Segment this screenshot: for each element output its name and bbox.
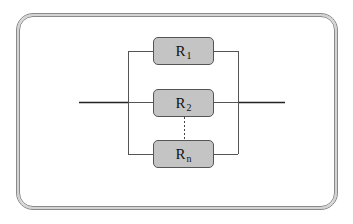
resistor-2-subscript: 2 — [187, 102, 192, 113]
resistor-1: R1 — [153, 37, 214, 65]
resistor-n: Rn — [153, 140, 214, 168]
resistor-1-subscript: 1 — [187, 50, 192, 61]
resistor-2-label: R — [175, 95, 185, 112]
resistor-n-label: R — [175, 146, 185, 163]
resistor-n-subscript: n — [187, 153, 192, 164]
resistor-1-label: R — [175, 43, 185, 60]
resistor-2: R2 — [153, 89, 214, 117]
